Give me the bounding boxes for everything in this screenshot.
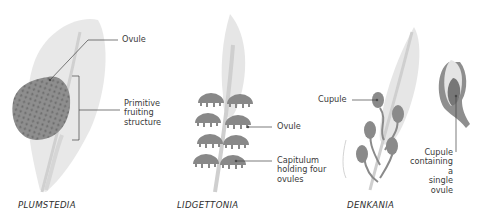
plumstedia-label-fruiting-structure: Primitive fruiting structure <box>124 99 161 127</box>
plumstedia-label-ovule: Ovule <box>122 35 146 44</box>
denkania-side-stem <box>343 140 346 178</box>
denkania-cupule-detail <box>439 60 470 128</box>
lidgettonia-label-capitulum: Capitulum holding four ovules <box>277 156 326 184</box>
plumstedia-illustration <box>12 19 105 192</box>
lidgettonia-label-ovule: Ovule <box>277 122 301 131</box>
title-lidgettonia: LIDGETTONIA <box>177 200 238 210</box>
title-plumstedia: PLUMSTEDIA <box>18 200 76 210</box>
denkania-label-cupule-single-ovule: Cupule containing a single ovule <box>405 148 453 195</box>
title-denkania: DENKANIA <box>347 200 394 210</box>
denkania-label-cupule: Cupule <box>318 95 347 104</box>
